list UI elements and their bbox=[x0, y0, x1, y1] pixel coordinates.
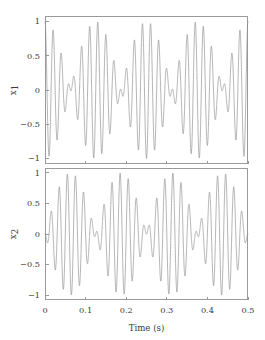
ylabel-x1-subscript: 1 bbox=[10, 85, 20, 90]
yticklabel-x1-0: −1 bbox=[28, 153, 40, 163]
xticklabel-5: 0.5 bbox=[241, 305, 254, 315]
ylabel-x2-subscript: 2 bbox=[10, 229, 20, 234]
x-axis-title: Time (s) bbox=[129, 323, 165, 333]
xticklabel-3: 0.3 bbox=[160, 305, 173, 315]
xticklabel-2: 0.2 bbox=[120, 305, 133, 315]
xticklabel-1: 0.1 bbox=[79, 305, 92, 315]
yticklabel-x1-2: 0 bbox=[35, 85, 40, 95]
xticklabel-0: 0 bbox=[42, 305, 47, 315]
yticklabel-x2-0: −1 bbox=[28, 290, 40, 300]
yticklabel-x2-1: −0.5 bbox=[20, 259, 40, 269]
yticklabel-x1-1: −0.5 bbox=[20, 119, 40, 129]
xticklabel-4: 0.4 bbox=[201, 305, 214, 315]
yticklabel-x2-3: 0.5 bbox=[27, 198, 40, 208]
yticklabel-x2-4: 1 bbox=[35, 168, 40, 178]
figure-container: −1−0.500.51 x1 −1−0.500.51 x2 00.10.20.3… bbox=[0, 0, 265, 340]
yticklabel-x1-4: 1 bbox=[35, 16, 40, 26]
yticklabel-x2-2: 0 bbox=[35, 229, 40, 239]
yticklabel-x1-3: 0.5 bbox=[27, 51, 40, 61]
signal-plot-figure: −1−0.500.51 x1 −1−0.500.51 x2 00.10.20.3… bbox=[0, 0, 265, 340]
